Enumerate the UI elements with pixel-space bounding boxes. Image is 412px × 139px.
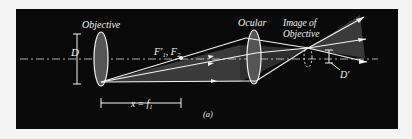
focal-points-label: F′₁, F₂: [153, 46, 181, 57]
aperture-D-label: D: [70, 46, 79, 58]
image-of-label: Image of: [282, 18, 318, 28]
ocular-label: Ocular: [238, 17, 266, 28]
telescope-ray-diagram: Objective Ocular Image of Objective D D′…: [0, 0, 412, 139]
objective-image-label: Objective: [283, 29, 319, 39]
objective-label: Objective: [82, 19, 121, 30]
distance-label: x = f₁: [130, 99, 152, 109]
aperture-D-prime-label: D′: [339, 69, 350, 80]
objective-lens: [94, 32, 108, 86]
panel-label: (a): [203, 109, 213, 119]
